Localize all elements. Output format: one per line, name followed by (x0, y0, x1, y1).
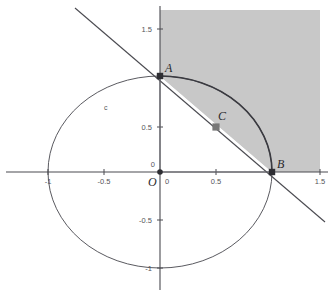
y-tick-label-neg05: -0.5 (139, 216, 152, 225)
point-label-b: B (277, 157, 285, 171)
point-c-marker (212, 123, 219, 130)
x-tick-label-zero: 0 (165, 177, 169, 186)
point-a-marker (157, 73, 163, 79)
y-tick-label-15: 1.5 (142, 25, 152, 34)
y-tick-label-05: 0.5 (142, 123, 152, 132)
point-b-marker (269, 169, 275, 175)
x-tick-label-05: 0.5 (211, 177, 221, 186)
point-o-marker (157, 169, 163, 175)
circle-label-c: c (104, 104, 108, 111)
y-tick-label-zero: 0 (151, 160, 155, 169)
plot-canvas: -1 -0.5 0 0.5 1.5 1.5 0.5 0 -0.5 -1 A B … (0, 0, 334, 294)
point-label-o: O (148, 175, 157, 189)
y-tick-label-neg1: -1 (145, 264, 152, 273)
point-label-a: A (164, 61, 173, 75)
x-tick-label-neg05: -0.5 (98, 177, 111, 186)
x-tick-label-15: 1.5 (315, 177, 325, 186)
geometry-figure: -1 -0.5 0 0.5 1.5 1.5 0.5 0 -0.5 -1 A B … (0, 0, 334, 294)
point-label-c: C (218, 109, 227, 123)
x-tick-label-neg1: -1 (45, 177, 52, 186)
shaded-region-group (160, 10, 320, 172)
